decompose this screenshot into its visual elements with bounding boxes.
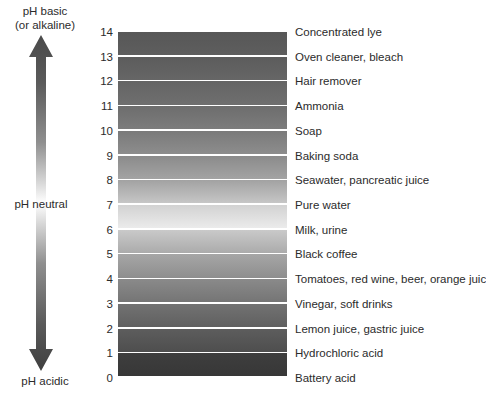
ph-label-10: Soap	[295, 125, 486, 138]
ph-value-6: 6	[86, 224, 113, 236]
ph-value-1: 1	[86, 347, 113, 359]
ph-direction-arrow-column: pH basic (or alkaline) pH neutral pH aci…	[0, 0, 96, 399]
ph-band-12	[118, 81, 287, 104]
ph-acidic-label: pH acidic	[0, 375, 90, 388]
ph-value-11: 11	[86, 100, 113, 112]
ph-label-2: Lemon juice, gastric juice	[295, 323, 486, 336]
ph-label-7: Pure water	[295, 199, 486, 212]
ph-label-9: Baking soda	[295, 150, 486, 163]
ph-band-3	[118, 304, 287, 327]
ph-label-4: Tomatoes, red wine, beer, orange juice	[295, 273, 486, 286]
ph-label-3: Vinegar, soft drinks	[295, 298, 486, 311]
ph-value-12: 12	[86, 75, 113, 87]
ph-band-11	[118, 106, 287, 129]
ph-label-13: Oven cleaner, bleach	[295, 51, 486, 64]
ph-band-8	[118, 180, 287, 203]
ph-band-6	[118, 230, 287, 253]
ph-band-9	[118, 156, 287, 179]
ph-value-14: 14	[86, 26, 113, 38]
ph-value-0: 0	[86, 372, 113, 384]
ph-basic-label: pH basic (or alkaline)	[0, 4, 90, 32]
ph-value-13: 13	[86, 51, 113, 63]
ph-value-3: 3	[86, 298, 113, 310]
ph-number-axis: 14131211109876543210	[86, 32, 113, 378]
ph-band-7	[118, 205, 287, 228]
ph-gradient-bar	[118, 32, 287, 378]
ph-band-2	[118, 329, 287, 352]
ph-band-13	[118, 57, 287, 80]
ph-value-8: 8	[86, 174, 113, 186]
ph-band-14	[118, 32, 287, 55]
ph-label-8: Seawater, pancreatic juice	[295, 174, 486, 187]
ph-label-6: Milk, urine	[295, 224, 486, 237]
ph-value-5: 5	[86, 248, 113, 260]
ph-value-2: 2	[86, 323, 113, 335]
ph-value-4: 4	[86, 273, 113, 285]
ph-value-9: 9	[86, 150, 113, 162]
ph-label-12: Hair remover	[295, 75, 486, 88]
ph-value-10: 10	[86, 125, 113, 137]
ph-label-11: Ammonia	[295, 100, 486, 113]
ph-label-5: Black coffee	[295, 248, 486, 261]
ph-band-0	[118, 353, 287, 376]
ph-value-7: 7	[86, 199, 113, 211]
ph-neutral-label: pH neutral	[0, 198, 82, 211]
ph-band-10	[118, 131, 287, 154]
ph-band-5	[118, 254, 287, 277]
ph-substance-label-list: Concentrated lyeOven cleaner, bleachHair…	[295, 32, 486, 378]
ph-label-14: Concentrated lye	[295, 26, 486, 39]
ph-band-4	[118, 279, 287, 302]
ph-label-0: Battery acid	[295, 372, 486, 385]
ph-label-1: Hydrochloric acid	[295, 347, 486, 360]
